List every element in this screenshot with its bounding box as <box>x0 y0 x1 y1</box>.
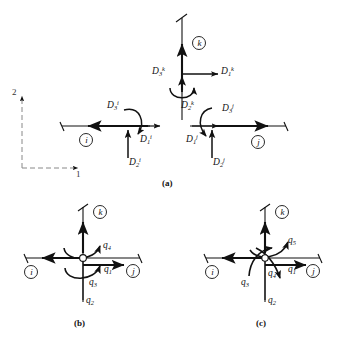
figure-vector-graphics <box>0 0 338 337</box>
panel-a-member-j-label: j <box>252 136 265 149</box>
panel-c-caption: (c) <box>256 318 266 328</box>
panel-b-member-j-label: j <box>127 265 140 278</box>
panel-b-structure <box>24 204 142 302</box>
label-q2-panel-b: q2 <box>86 296 94 306</box>
panel-c-structure <box>204 204 322 302</box>
panel-a-member-j <box>190 108 288 158</box>
panel-a-member-k-label: k <box>193 37 206 50</box>
panel-b-member-i-label: i <box>25 266 38 279</box>
panel-c-member-j-label: j <box>307 265 320 278</box>
axis-label-2: 2 <box>12 88 17 97</box>
panel-b-joint-node <box>80 255 87 262</box>
label-d3j: D3j <box>222 103 234 114</box>
label-q2-panel-c: q2 <box>268 296 276 306</box>
label-d1k: D1k <box>221 66 234 77</box>
label-q3-panel-b: q3 <box>89 278 97 288</box>
label-q5-panel-c: q5 <box>288 236 296 246</box>
label-d1i: D1i <box>140 134 152 145</box>
panel-b-caption: (b) <box>74 318 85 328</box>
figure-container: 2 1 i j k D3k D1k D2k D3i D1i D2i D3j D1… <box>0 0 338 337</box>
label-d2i: D2i <box>129 157 141 168</box>
panel-c-member-k-label: k <box>276 206 289 219</box>
label-d3k: D3k <box>152 66 165 77</box>
panel-a-member-k <box>170 14 218 120</box>
axis-label-1: 1 <box>76 170 81 179</box>
panel-c-joint-node <box>262 255 268 261</box>
panel-a-caption: (a) <box>162 178 173 188</box>
label-q1-panel-c: q1 <box>288 265 296 275</box>
label-d2j: D2j <box>213 157 225 168</box>
label-q1-panel-b: q1 <box>104 265 112 275</box>
panel-a-member-i-label: i <box>80 134 93 147</box>
label-d1j: D1j <box>186 134 198 145</box>
label-d3i: D3i <box>107 100 119 111</box>
label-q3-panel-c: q3 <box>241 278 249 288</box>
label-q4-panel-c: q4 <box>268 269 276 279</box>
panel-c-member-i-label: i <box>206 266 219 279</box>
label-q4-panel-b: q4 <box>103 241 111 251</box>
panel-b-member-k-label: k <box>94 206 107 219</box>
panel-a-global-axes <box>22 96 78 168</box>
label-d2k: D2k <box>181 100 194 111</box>
